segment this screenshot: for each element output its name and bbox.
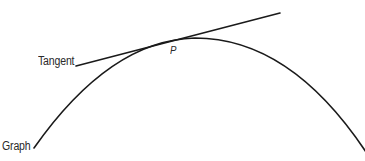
tangent-line [76, 13, 280, 66]
diagram-graphic [0, 0, 365, 161]
tangent-label: Tangent [38, 55, 74, 67]
graph-label: Graph [2, 140, 30, 152]
graph-curve [34, 38, 365, 152]
tangent-diagram: Tangent Graph P [0, 0, 365, 161]
point-p-label: P [170, 45, 176, 56]
